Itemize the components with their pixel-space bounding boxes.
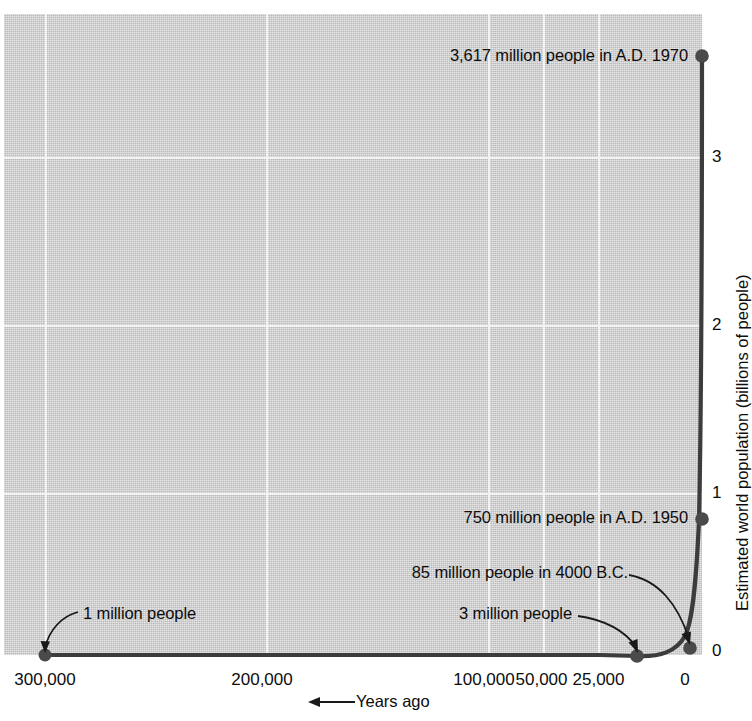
annotation-1-million: 1 million people bbox=[83, 604, 196, 623]
xtick-25000: 25,000 bbox=[561, 670, 636, 690]
data-point-3617-million bbox=[695, 49, 709, 63]
leader-line-3-million bbox=[578, 616, 637, 648]
annotation-3-million: 3 million people bbox=[280, 604, 572, 623]
ytick-0: 0 bbox=[712, 641, 721, 661]
data-point-750-million bbox=[695, 512, 709, 526]
ytick-2: 2 bbox=[712, 315, 721, 335]
x-axis-title: Years ago bbox=[356, 692, 430, 711]
x-axis-direction-arrow bbox=[308, 697, 355, 707]
ytick-1: 1 bbox=[712, 483, 721, 503]
y-axis-title: Estimated world population (billions of … bbox=[733, 274, 752, 611]
annotation-3617-million: 3,617 million people in A.D. 1970 bbox=[200, 46, 688, 65]
leader-line-1-million bbox=[45, 612, 78, 648]
xtick-200000: 200,000 bbox=[217, 670, 307, 690]
ytick-3: 3 bbox=[712, 147, 721, 167]
annotation-750-million: 750 million people in A.D. 1950 bbox=[200, 508, 688, 527]
annotation-85-million: 85 million people in 4000 B.C. bbox=[180, 563, 628, 582]
population-growth-chart: 3,617 million people in A.D. 1970 750 mi… bbox=[0, 0, 752, 721]
leader-line-85-million bbox=[629, 575, 689, 639]
xtick-300000: 300,000 bbox=[0, 670, 90, 690]
xtick-0: 0 bbox=[672, 670, 698, 690]
